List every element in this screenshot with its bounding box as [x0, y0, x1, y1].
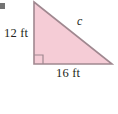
triangle-shape: [34, 2, 112, 64]
right-triangle-svg: [0, 0, 118, 114]
geometry-figure: 12 ft 16 ft c: [0, 0, 118, 114]
hypotenuse-label: c: [77, 15, 83, 27]
vertical-leg-label: 12 ft: [4, 27, 28, 40]
horizontal-leg-label: 16 ft: [56, 67, 80, 80]
